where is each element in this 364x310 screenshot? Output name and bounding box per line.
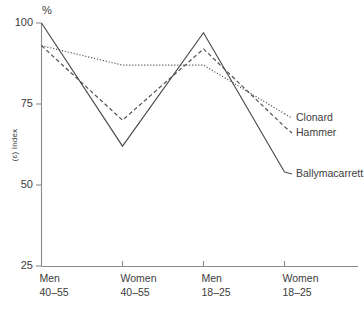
chart-axes xyxy=(42,23,359,267)
chart-container: 255075100 % (ɛ) Index ClonardHammerBally… xyxy=(0,0,364,310)
x-tick-group xyxy=(123,261,285,267)
line-chart: 255075100 % (ɛ) Index ClonardHammerBally… xyxy=(0,0,364,310)
legend-label-ballymacarrett: Ballymacarrett xyxy=(296,167,363,179)
legend-leader-hammer xyxy=(285,127,293,133)
x-category-label: Women xyxy=(283,272,319,284)
x-category-label: 40–55 xyxy=(40,286,69,298)
x-category-label: Men xyxy=(202,272,223,284)
y-tick-label: 25 xyxy=(21,259,33,271)
x-category-label: Men xyxy=(40,272,61,284)
legend-leader-clonard xyxy=(285,114,293,118)
y-tick-label: 100 xyxy=(15,16,33,28)
series-line-hammer xyxy=(42,46,285,127)
x-category-labels: Men40–55Women40–55Men18–25Women18–25 xyxy=(40,272,319,298)
series-line-ballymacarrett xyxy=(42,23,285,172)
y-tick-label: 50 xyxy=(21,178,33,190)
x-category-label: Women xyxy=(121,272,157,284)
legend-label-clonard: Clonard xyxy=(296,111,333,123)
y-tick-label: 75 xyxy=(21,97,33,109)
y-axis-unit-label: % xyxy=(42,4,52,16)
x-category-label: 18–25 xyxy=(202,286,231,298)
series-group xyxy=(42,23,285,172)
x-category-label: 40–55 xyxy=(121,286,150,298)
legend-leader-ballymacarrett xyxy=(285,172,293,174)
x-category-label: 18–25 xyxy=(283,286,312,298)
legend-group: ClonardHammerBallymacarrett xyxy=(285,111,364,179)
legend-label-hammer: Hammer xyxy=(296,126,337,138)
y-axis-title: (ɛ) Index xyxy=(10,129,19,162)
